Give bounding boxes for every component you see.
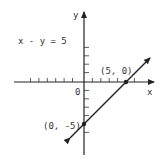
point-label-y-intercept: (0, -5) [43,121,81,131]
point-x-intercept [124,80,128,84]
equation-label: x - y = 5 [18,36,67,46]
x-axis-label: x [147,87,153,97]
point-label-x-intercept: (5, 0) [100,66,133,76]
point-y-intercept [82,122,86,126]
origin-label: 0 [75,87,80,97]
coordinate-plane: x - y = 5 y x 0 (5, 0) (0, -5) [0,0,164,162]
y-axis-label: y [73,10,79,20]
